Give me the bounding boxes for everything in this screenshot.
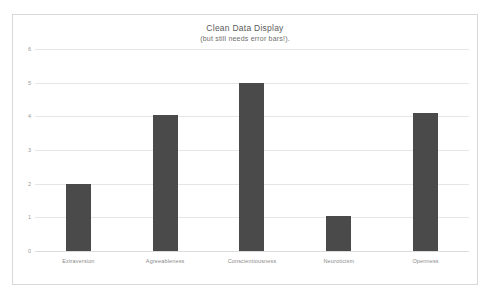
x-axis-category-label: Agreeableness [146, 258, 185, 264]
bar-neuroticism [326, 216, 351, 251]
y-axis-tick-label: 3 [28, 147, 31, 153]
bar-chart-figure: Clean Data Display (but still needs erro… [12, 14, 478, 285]
chart-subtitle: (but still needs error bars!). [13, 34, 477, 44]
x-axis-category-label: Neuroticism [323, 258, 354, 264]
chart-title-block: Clean Data Display (but still needs erro… [13, 23, 477, 44]
bar-group: Extraversion [35, 49, 122, 251]
y-axis-tick-label: 4 [28, 113, 31, 119]
bar-extraversion [66, 184, 91, 251]
bar-openness [413, 113, 438, 251]
plot-area: 0123456 ExtraversionAgreeablenessConscie… [35, 49, 469, 251]
y-axis-tick-label: 0 [28, 248, 31, 254]
bar-group: Openness [382, 49, 469, 251]
x-axis-category-label: Openness [412, 258, 438, 264]
bar-conscientiousness [239, 83, 264, 251]
bar-group: Conscientiousness [209, 49, 296, 251]
bars-layer: ExtraversionAgreeablenessConscientiousne… [35, 49, 469, 251]
y-axis-tick-label: 5 [28, 80, 31, 86]
x-axis-category-label: Extraversion [62, 258, 94, 264]
bar-agreeableness [153, 115, 178, 251]
page-title: Clean Data Display [13, 23, 477, 34]
y-axis-tick-label: 1 [28, 214, 31, 220]
bar-group: Agreeableness [122, 49, 209, 251]
x-axis-category-label: Conscientiousness [228, 258, 277, 264]
y-axis-tick-label: 2 [28, 181, 31, 187]
y-axis-tick-label: 6 [28, 46, 31, 52]
gridline-y-0 [35, 251, 469, 252]
bar-group: Neuroticism [295, 49, 382, 251]
